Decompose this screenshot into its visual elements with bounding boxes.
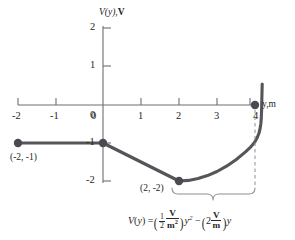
brace-parabolic-region bbox=[172, 188, 255, 200]
equation-open-paren-2: ( bbox=[201, 215, 205, 231]
equation-close-arg: ) bbox=[142, 215, 145, 226]
equation-coef1-numerator: 1 bbox=[159, 213, 165, 221]
equation-unit-volts-per-meter-squared: Vm2 bbox=[166, 209, 179, 230]
y-axis-label-unit: V bbox=[118, 7, 125, 17]
y-tick-label-1: 1 bbox=[90, 60, 95, 71]
x-tick-label-3: 3 bbox=[214, 111, 219, 122]
x-tick-label-0: 0 bbox=[91, 111, 96, 122]
point-label-minimum: (2, -2) bbox=[140, 184, 164, 194]
equation-unit-volts-per-meter: Vm bbox=[211, 211, 221, 230]
x-tick-label-1: 1 bbox=[138, 111, 143, 122]
equation-open-paren-1: ( bbox=[154, 215, 158, 231]
equation-unit2-numerator: V bbox=[211, 211, 221, 220]
equation-coefficient-two: 2 bbox=[206, 215, 211, 226]
x-tick-label-4: 4 bbox=[253, 111, 258, 122]
potential-energy-figure: V(y),V y,m 2 1 0 -1 -2 -2 -1 0 1 2 3 4 (… bbox=[0, 0, 295, 240]
marker-point-minus2-minus1 bbox=[14, 139, 22, 147]
x-tick-label-minus1: -1 bbox=[50, 111, 59, 122]
equation-unit1-denominator: m2 bbox=[166, 218, 179, 230]
curve-linear-segment bbox=[103, 143, 179, 181]
x-tick-label-minus2: -2 bbox=[12, 111, 21, 122]
equation-var2: y bbox=[227, 215, 231, 226]
marker-point-0-minus1 bbox=[99, 139, 107, 147]
equation-var1-exponent: 2 bbox=[189, 214, 193, 222]
equation-minus-sign: − bbox=[195, 215, 201, 226]
equation-unit1-numerator: V bbox=[166, 209, 179, 218]
equation-close-paren-2: ) bbox=[222, 215, 226, 231]
equation-unit2-denominator: m bbox=[211, 220, 221, 230]
equation-annotation: V(y) =(12Vm2)y2 −(2Vm)y bbox=[128, 209, 231, 230]
y-tick-label-2: 2 bbox=[90, 22, 95, 33]
marker-point-2-minus2 bbox=[175, 177, 183, 185]
marker-point-4-0 bbox=[251, 101, 259, 109]
y-tick-label-minus1: -1 bbox=[86, 137, 95, 148]
equation-close-paren-1: ) bbox=[180, 215, 184, 231]
x-axis-label: y,m bbox=[262, 100, 276, 110]
equation-equals-sign: = bbox=[148, 215, 154, 226]
y-tick-label-minus2: -2 bbox=[86, 175, 95, 186]
equation-coefficient-half: 12 bbox=[159, 213, 165, 230]
y-axis-label: V(y),V bbox=[99, 8, 125, 18]
point-label-left-endpoint: (-2, -1) bbox=[10, 153, 37, 163]
equation-coef1-denominator: 2 bbox=[159, 221, 165, 230]
x-tick-marks bbox=[18, 98, 250, 105]
plot-svg bbox=[0, 0, 295, 240]
x-tick-label-2: 2 bbox=[176, 111, 181, 122]
y-axis-label-function: V(y) bbox=[99, 7, 115, 17]
